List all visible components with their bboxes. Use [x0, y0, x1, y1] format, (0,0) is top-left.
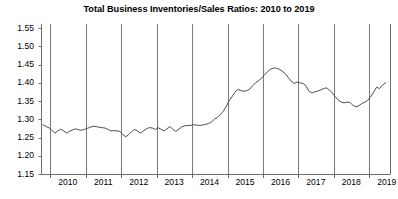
x-gridlines — [51, 24, 370, 174]
y-tick-label-1.15: 1.15 — [4, 169, 34, 179]
y-tick-label-1.35: 1.35 — [4, 96, 34, 106]
y-tick-label-1.40: 1.40 — [4, 77, 34, 87]
x-tick-label-2019: 2019 — [367, 177, 398, 187]
x-tick-label-2014: 2014 — [190, 177, 230, 187]
x-tick-label-2012: 2012 — [119, 177, 159, 187]
y-tick-label-1.45: 1.45 — [4, 59, 34, 69]
chart-figure: Total Business Inventories/Sales Ratios:… — [0, 0, 398, 199]
x-tick-label-2016: 2016 — [260, 177, 300, 187]
y-tick-label-1.30: 1.30 — [4, 114, 34, 124]
x-tick-label-2013: 2013 — [154, 177, 194, 187]
x-tick-label-2010: 2010 — [48, 177, 88, 187]
y-tick-label-1.25: 1.25 — [4, 132, 34, 142]
x-tick-label-2018: 2018 — [331, 177, 371, 187]
y-tick-label-1.20: 1.20 — [4, 150, 34, 160]
x-tick-label-2015: 2015 — [225, 177, 265, 187]
x-tick-label-2011: 2011 — [83, 177, 123, 187]
y-tick-label-1.50: 1.50 — [4, 41, 34, 51]
plot-area — [0, 0, 398, 199]
x-tick-label-2017: 2017 — [296, 177, 336, 187]
y-tick-label-1.55: 1.55 — [4, 23, 34, 33]
